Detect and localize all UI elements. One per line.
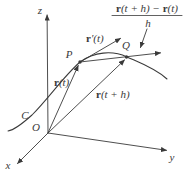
y-axis-label: y [169, 151, 175, 163]
r-t-label: r(t) [54, 76, 70, 89]
dq-num-mid: (t + h) − [121, 2, 163, 15]
r-prime-label: r′(t) [86, 32, 104, 45]
point-p-label: P [65, 48, 73, 60]
x-axis-label: x [5, 159, 11, 171]
x-axis [18, 133, 49, 164]
dq-num-end: (t) [168, 2, 179, 15]
point-q-dot [125, 55, 128, 58]
difference-quotient-denominator: h [145, 17, 151, 29]
label-pointer-arrow [141, 29, 148, 48]
r-t-label-args: (t) [59, 76, 70, 89]
y-axis [48, 133, 167, 150]
z-axis [47, 15, 48, 133]
z-axis-label: z [37, 4, 43, 16]
origin-label: O [32, 121, 40, 133]
point-q-label: Q [122, 39, 130, 51]
r-prime-label-args: ′(t) [91, 32, 104, 45]
r-t-plus-h-label-args: (t + h) [101, 88, 130, 101]
difference-quotient-numerator: r(t + h) − r(t) [116, 2, 178, 15]
point-p-dot [78, 60, 81, 63]
space-curve [8, 53, 167, 131]
vector-derivative-diagram: z y x O C P Q r(t) r(t + h) r′(t) r(t + … [0, 0, 185, 181]
curve-label: C [21, 109, 29, 121]
r-t-plus-h-label: r(t + h) [96, 88, 130, 101]
diagram-canvas: z y x O C P Q r(t) r(t + h) r′(t) r(t + … [0, 0, 185, 181]
